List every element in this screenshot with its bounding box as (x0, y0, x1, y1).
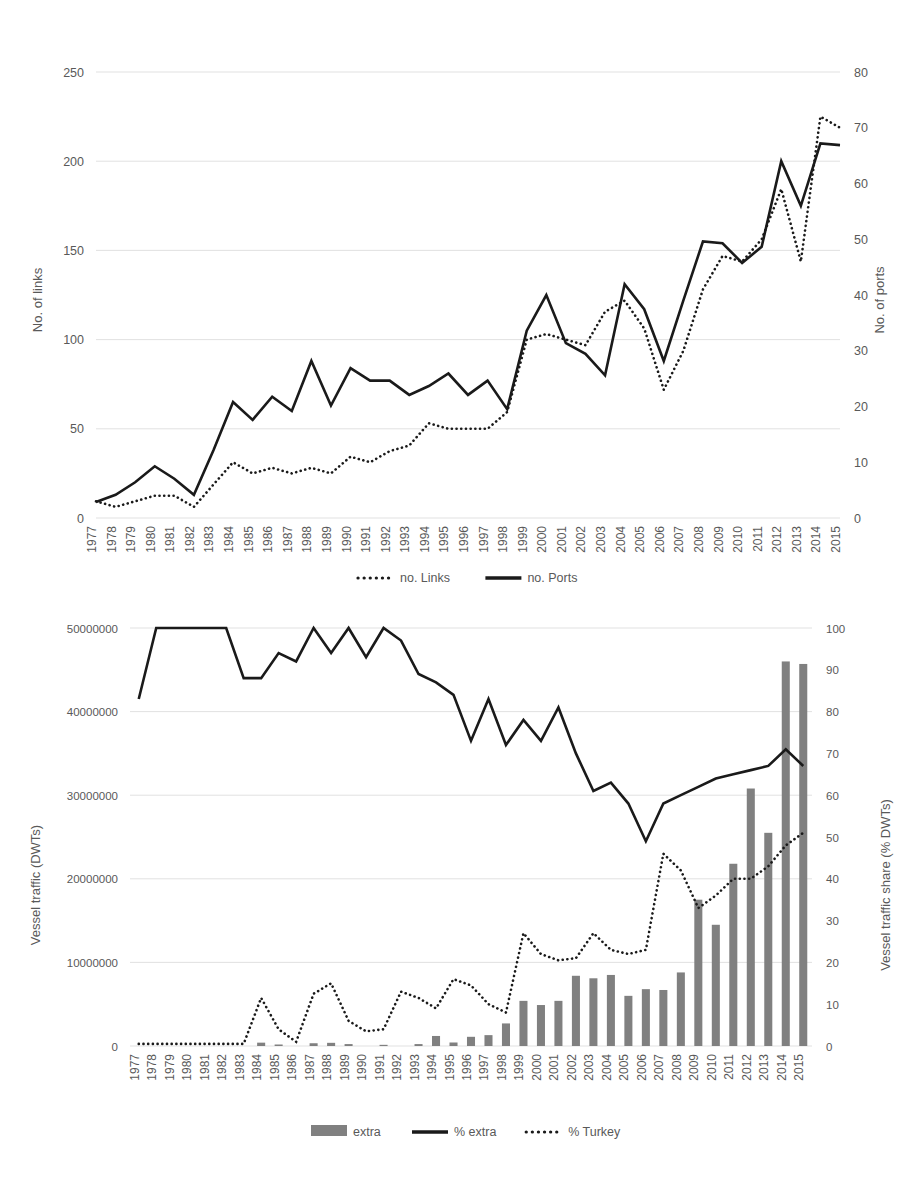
y2-tick-label: 70 (854, 121, 868, 135)
y2-axis-title-chart1: No. of ports (872, 266, 887, 334)
x-tick-label: 2005 (633, 526, 647, 553)
x-tick-label: 1991 (373, 1054, 387, 1081)
bar (607, 975, 615, 1046)
y2-tick-label: 100 (826, 623, 845, 635)
x-tick-label: 1984 (222, 526, 236, 553)
x-tick-label: 2003 (594, 526, 608, 553)
y-tick-label: 50 (70, 422, 84, 436)
y-axis-title-chart2: Vessel traffic (DWTs) (28, 825, 43, 945)
x-tick-label: 2006 (635, 1054, 649, 1081)
x-tick-label: 1992 (390, 1054, 404, 1081)
y2-tick-label: 0 (854, 512, 861, 526)
x-tick-label: 2001 (555, 526, 569, 553)
legend-label: % extra (454, 1125, 496, 1139)
x-tick-label: 2004 (614, 526, 628, 553)
x-tick-label: 2005 (617, 1054, 631, 1081)
gridlines-chart1 (96, 72, 840, 518)
y2-tick-label: 60 (854, 177, 868, 191)
x-tick-label: 2009 (712, 526, 726, 553)
x-tick-label: 1989 (338, 1054, 352, 1081)
x-tick-label: 1994 (425, 1054, 439, 1081)
legend-item-no-links[interactable]: no. Links (358, 571, 450, 585)
bar (659, 990, 667, 1046)
x-tick-label: 1997 (477, 526, 491, 553)
y2-axis-title-chart2: Vessel traffic share (% DWTs) (878, 799, 893, 971)
bar (572, 976, 580, 1046)
x-tick-label: 2000 (530, 1054, 544, 1081)
x-tick-label: 2015 (792, 1054, 806, 1081)
x-tick-label: 2013 (790, 526, 804, 553)
legend-label: no. Links (400, 571, 450, 585)
legend-label: no. Ports (527, 571, 577, 585)
bar (484, 1035, 492, 1046)
x-tick-label: 2007 (652, 1054, 666, 1081)
y-tick-label: 20000000 (67, 873, 118, 885)
x-tick-label: 1990 (355, 1054, 369, 1081)
bar (310, 1043, 318, 1046)
x-tick-label: 1985 (268, 1054, 282, 1081)
y-tick-label: 200 (63, 155, 84, 169)
x-tick-label: 1987 (303, 1054, 317, 1081)
x-tick-label: 1979 (163, 1054, 177, 1081)
y2-tick-label: 60 (826, 790, 839, 802)
x-tick-label: 2002 (574, 526, 588, 553)
y-tick-label: 100 (63, 333, 84, 347)
gridlines-chart2 (130, 628, 812, 1046)
y-axis-ticks-chart1: 050100150200250 (63, 66, 84, 526)
x-tick-label: 1996 (460, 1054, 474, 1081)
x-tick-label: 2014 (809, 526, 823, 553)
bar-series-chart2 (257, 661, 807, 1046)
x-tick-label: 2010 (705, 1054, 719, 1081)
bar (467, 1037, 475, 1046)
y-tick-label: 30000000 (67, 790, 118, 802)
x-tick-label: 1988 (300, 526, 314, 553)
y2-tick-label: 0 (826, 1041, 832, 1053)
bar (747, 789, 755, 1046)
y2-tick-label: 30 (854, 344, 868, 358)
y2-axis-ticks-chart2: 0102030405060708090100 (826, 623, 845, 1053)
x-tick-label: 2008 (670, 1054, 684, 1081)
x-tick-label: 1990 (340, 526, 354, 553)
legend-item-no-ports[interactable]: no. Ports (485, 571, 577, 585)
y2-tick-label: 40 (826, 873, 839, 885)
x-tick-label: 1988 (320, 1054, 334, 1081)
chart-links-ports: 050100150200250 01020304050607080 197719… (0, 10, 920, 600)
x-tick-label: 1993 (398, 526, 412, 553)
bar (432, 1036, 440, 1046)
x-tick-label: 1998 (496, 526, 510, 553)
x-tick-label: 1977 (128, 1054, 142, 1081)
legend-label: extra (353, 1125, 381, 1139)
x-tick-label: 1989 (320, 526, 334, 553)
bar (554, 1001, 562, 1046)
x-tick-label: 1980 (180, 1054, 194, 1081)
bar (537, 1005, 545, 1046)
x-tick-label: 1977 (85, 526, 99, 553)
x-tick-label: 2014 (775, 1054, 789, 1081)
bar (519, 1001, 527, 1046)
x-tick-label: 1993 (408, 1054, 422, 1081)
series-no-links (96, 117, 840, 507)
y2-tick-label: 80 (826, 706, 839, 718)
y2-tick-label: 30 (826, 915, 839, 927)
legend-item--turkey[interactable]: % Turkey (526, 1125, 621, 1139)
x-tick-label: 1984 (250, 1054, 264, 1081)
x-tick-label: 2009 (687, 1054, 701, 1081)
y2-tick-label: 40 (854, 289, 868, 303)
page-top-artifact (0, 0, 920, 8)
bar (729, 864, 737, 1046)
x-axis-category-labels-chart2: 1977197819791980198119821983198419851986… (128, 1054, 807, 1081)
y2-tick-label: 20 (826, 957, 839, 969)
legend-item-extra[interactable]: extra (311, 1125, 381, 1139)
legend-chart1: no. Linksno. Ports (358, 571, 577, 585)
bar (415, 1044, 423, 1046)
bar (799, 664, 807, 1046)
series--turkey (139, 833, 804, 1044)
x-tick-label: 1986 (285, 1054, 299, 1081)
x-tick-label: 2010 (731, 526, 745, 553)
bar (327, 1043, 335, 1046)
x-tick-label: 2007 (672, 526, 686, 553)
x-tick-label: 2012 (740, 1054, 754, 1081)
legend-item--extra[interactable]: % extra (412, 1125, 496, 1139)
x-tick-label: 1981 (198, 1054, 212, 1081)
bar (589, 978, 597, 1046)
